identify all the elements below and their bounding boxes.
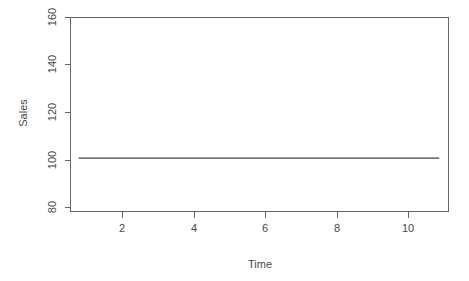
y-tick-label-100: 100 bbox=[46, 151, 58, 169]
x-tick-label-6: 6 bbox=[262, 222, 268, 234]
x-tick-label-8: 8 bbox=[334, 222, 340, 234]
y-tick-label-120: 120 bbox=[46, 103, 58, 121]
x-axis-title: Time bbox=[248, 258, 272, 270]
x-tick-label-4: 4 bbox=[191, 222, 197, 234]
sales-time-line-chart: 160 140 120 100 80 2 4 6 8 10 Sales Time bbox=[0, 0, 469, 281]
chart-plot-area: 160 140 120 100 80 2 4 6 8 10 Sales Time bbox=[0, 0, 469, 281]
y-tick-label-140: 140 bbox=[46, 55, 58, 73]
y-tick-label-160: 160 bbox=[46, 8, 58, 26]
y-axis-title: Sales bbox=[17, 99, 29, 127]
x-tick-label-2: 2 bbox=[119, 222, 125, 234]
y-tick-label-80: 80 bbox=[46, 201, 58, 213]
x-tick-label-10: 10 bbox=[402, 222, 414, 234]
